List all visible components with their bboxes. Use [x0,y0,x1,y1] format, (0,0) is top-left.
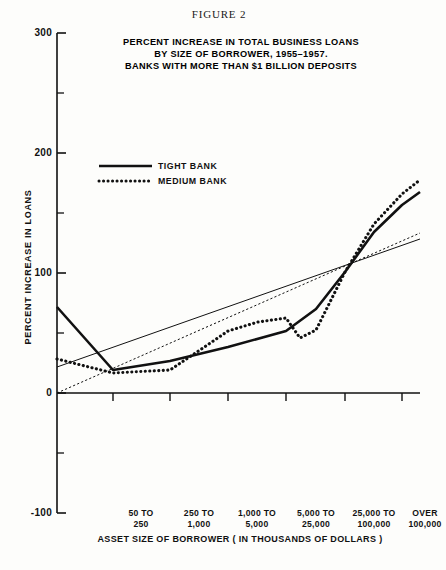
series-tight-trend-line [57,239,420,367]
x-category-label-5-line-2: 100,000 [385,519,446,530]
x-category-label-5: OVER 100,000 [385,508,446,529]
x-axis-label: ASSET SIZE OF BORROWER ( IN THOUSANDS OF… [50,534,430,544]
y-tick-label-300: 300 [18,27,52,38]
y-tick-label-100: 100 [18,267,52,278]
y-tick-label-neg100: -100 [10,507,52,518]
legend-label-medium-bank: MEDIUM BANK [158,176,227,186]
series-tight-bank-line [57,192,420,370]
y-tick-label-200: 200 [18,147,52,158]
legend-label-tight-bank: TIGHT BANK [158,161,217,171]
x-category-label-5-line-1: OVER [385,508,446,519]
y-tick-label-0: 0 [18,387,52,398]
